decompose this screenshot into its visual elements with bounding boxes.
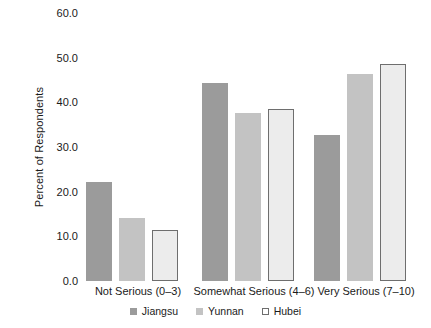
y-axis-tick-label: 40.0 <box>30 97 78 108</box>
bar-group: Very Serious (7–10) <box>314 13 418 281</box>
y-axis-tick-labels: 0.010.020.030.040.050.060.0 <box>30 0 78 328</box>
legend-item-label: Hubei <box>274 305 301 317</box>
legend-swatch-icon <box>196 308 203 315</box>
legend-item-label: Jiangsu <box>142 305 178 317</box>
bar-hubei-1[interactable] <box>152 230 178 281</box>
y-axis-tick-label: 0.0 <box>30 276 78 287</box>
legend-item-hubei[interactable]: Hubei <box>262 305 301 317</box>
bar-chart: Percent of Respondents 0.010.020.030.040… <box>0 0 431 328</box>
legend-item-yunnan[interactable]: Yunnan <box>196 305 244 317</box>
bar-group: Somewhat Serious (4–6) <box>202 13 306 281</box>
bar-group-bars <box>86 13 190 281</box>
bar-jiangsu-1[interactable] <box>86 182 112 281</box>
bar-yunnan-3[interactable] <box>347 74 373 281</box>
bar-jiangsu-3[interactable] <box>314 135 340 281</box>
bar-hubei-2[interactable] <box>268 109 294 281</box>
plot-area: Not Serious (0–3)Somewhat Serious (4–6)V… <box>86 13 424 281</box>
x-axis-category-label: Somewhat Serious (4–6) <box>193 285 314 298</box>
legend-item-label: Yunnan <box>208 305 244 317</box>
chart-legend: JiangsuYunnanHubei <box>0 305 431 317</box>
y-axis-tick-label: 60.0 <box>30 8 78 19</box>
x-axis-category-label: Very Serious (7–10) <box>317 285 414 298</box>
y-axis-tick-label: 20.0 <box>30 186 78 197</box>
y-axis-tick-label: 50.0 <box>30 52 78 63</box>
bar-hubei-3[interactable] <box>380 64 406 281</box>
bar-jiangsu-2[interactable] <box>202 83 228 281</box>
bar-group-bars <box>202 13 306 281</box>
x-axis-category-label: Not Serious (0–3) <box>95 285 181 298</box>
bar-yunnan-2[interactable] <box>235 113 261 281</box>
bar-yunnan-1[interactable] <box>119 218 145 281</box>
bar-group-bars <box>314 13 418 281</box>
legend-swatch-icon <box>262 308 269 315</box>
y-axis-tick-label: 10.0 <box>30 231 78 242</box>
legend-swatch-icon <box>130 308 137 315</box>
y-axis-tick-label: 30.0 <box>30 142 78 153</box>
legend-item-jiangsu[interactable]: Jiangsu <box>130 305 178 317</box>
bar-group: Not Serious (0–3) <box>86 13 190 281</box>
